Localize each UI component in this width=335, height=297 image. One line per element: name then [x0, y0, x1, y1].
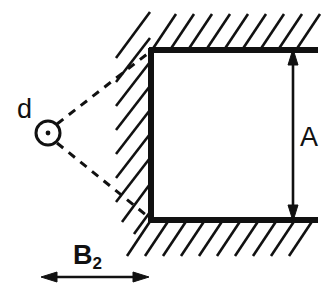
label-dimension-b2-subscript: 2 — [93, 254, 102, 273]
dimension-b2 — [41, 272, 149, 282]
lower-ray — [57, 143, 151, 219]
label-dimension-a: A — [300, 124, 318, 151]
hatching-left — [116, 12, 150, 234]
hatching-bottom — [127, 220, 313, 256]
dimension-b2-arrow-left — [41, 272, 57, 282]
dimension-a — [288, 49, 298, 221]
source-center-dot — [46, 131, 51, 136]
technical-diagram: d A B2 — [0, 0, 335, 297]
label-source-d: d — [17, 96, 32, 123]
upper-ray — [57, 51, 151, 124]
label-dimension-b2-base: B — [73, 240, 93, 270]
diagram-canvas — [0, 0, 335, 297]
hatching-top — [152, 14, 320, 50]
label-dimension-b2: B2 — [73, 242, 102, 269]
dashed-rays — [57, 51, 151, 219]
source-marker — [36, 121, 60, 145]
dimension-b2-arrow-right — [133, 272, 149, 282]
